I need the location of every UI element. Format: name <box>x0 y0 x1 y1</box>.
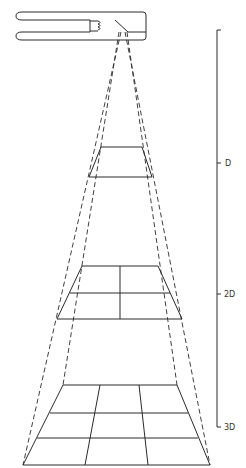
label-3D: 3D <box>224 423 235 432</box>
ray-outer-right <box>125 32 210 465</box>
distance-scale: D 2D 3D <box>217 30 235 432</box>
label-2D: 2D <box>224 290 235 299</box>
plane-at-2D <box>57 266 182 319</box>
housing-upper-rail <box>16 12 90 20</box>
plane-3D-divider-v2 <box>139 385 148 465</box>
ray-outer-left <box>23 32 121 465</box>
lamp-housing <box>16 12 146 40</box>
beam-rays <box>23 32 210 465</box>
reflector <box>115 20 146 32</box>
housing-lower-rail <box>16 32 90 40</box>
ray-inner-left <box>63 32 119 385</box>
ray-inner-right <box>127 32 177 385</box>
plane-3D-divider-v1 <box>85 385 100 465</box>
inverse-square-diagram: D 2D 3D <box>0 0 246 468</box>
scale-bar <box>217 30 221 427</box>
filament-coil-icon <box>98 21 100 30</box>
label-D: D <box>225 159 231 168</box>
plane-3D-outline <box>23 385 210 465</box>
plane-at-3D <box>23 385 210 465</box>
filament-leads <box>90 21 98 31</box>
